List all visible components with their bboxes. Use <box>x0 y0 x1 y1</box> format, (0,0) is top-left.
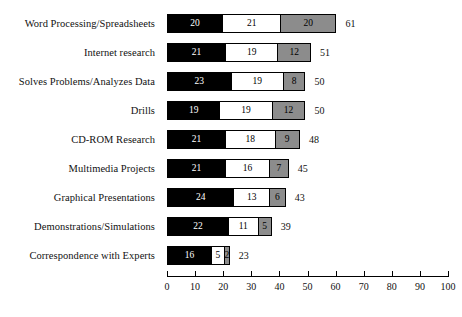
bar-segment-value: 7 <box>276 164 281 174</box>
bar-segment: 21 <box>222 14 281 33</box>
bar-segment: 5 <box>211 246 225 265</box>
plot-area: 2021206121191251231985019191250211894821… <box>167 0 462 317</box>
stacked-bar: 24136 <box>167 188 285 207</box>
bar-total-label: 50 <box>315 101 325 120</box>
bar-total-label: 51 <box>320 43 330 62</box>
category-label-row: Drills <box>0 101 155 120</box>
stacked-bar: 22115 <box>167 217 271 236</box>
bar-segment: 23 <box>167 72 232 91</box>
bar-segment-value: 2 <box>224 251 229 261</box>
x-axis-tick-label: 0 <box>152 281 182 293</box>
category-label-column: Word Processing/SpreadsheetsInternet res… <box>0 0 158 270</box>
bar-segment-value: 21 <box>192 164 202 174</box>
x-axis-tick-label: 50 <box>293 281 323 293</box>
x-axis-tick-label: 100 <box>433 281 462 293</box>
stacked-bar: 21189 <box>167 130 299 149</box>
bar-segment-value: 18 <box>246 135 256 145</box>
bar-segment: 19 <box>231 72 284 91</box>
bar-segment-value: 19 <box>189 106 199 116</box>
bar-segment-value: 8 <box>292 77 297 87</box>
bar-segment: 13 <box>233 188 270 207</box>
category-label: Graphical Presentations <box>0 192 155 203</box>
bar-segment: 21 <box>167 43 226 62</box>
bar-total-label: 43 <box>295 188 305 207</box>
bar-segment-value: 9 <box>285 135 290 145</box>
bar-segment: 19 <box>225 43 278 62</box>
category-label: Word Processing/Spreadsheets <box>0 18 155 29</box>
bar-segment-value: 13 <box>247 193 257 203</box>
x-axis-tick-label: 90 <box>405 281 435 293</box>
bar-segment: 8 <box>283 72 305 91</box>
bar-segment: 20 <box>167 14 223 33</box>
bar-segment-value: 22 <box>193 222 203 232</box>
stacked-bar: 211912 <box>167 43 310 62</box>
category-label-row: Demonstrations/Simulations <box>0 217 155 236</box>
bar-segment: 24 <box>167 188 234 207</box>
bar-segment: 6 <box>269 188 286 207</box>
bar-segment-value: 23 <box>195 77 205 87</box>
bar-segment: 2 <box>224 246 230 265</box>
bar-segment-value: 12 <box>289 48 299 58</box>
stacked-bar: 1652 <box>167 246 229 265</box>
bar-segment: 9 <box>275 130 300 149</box>
bar-segment: 19 <box>167 101 220 120</box>
category-label: Multimedia Projects <box>0 163 155 174</box>
bar-segment-value: 21 <box>247 19 257 29</box>
stacked-bar: 191912 <box>167 101 304 120</box>
bar-segment: 16 <box>167 246 212 265</box>
category-label: Solves Problems/Analyzes Data <box>0 76 155 87</box>
bar-segment-value: 20 <box>304 19 314 29</box>
bar-segment-value: 6 <box>275 193 280 203</box>
x-axis-tick-label: 20 <box>208 281 238 293</box>
bar-segment: 22 <box>167 217 229 236</box>
bar-segment: 5 <box>258 217 272 236</box>
category-label: Demonstrations/Simulations <box>0 221 155 232</box>
category-label-row: Word Processing/Spreadsheets <box>0 14 155 33</box>
bar-segment-value: 19 <box>247 48 257 58</box>
x-axis-tick-label: 30 <box>236 281 266 293</box>
bar-segment-value: 16 <box>243 164 253 174</box>
x-axis-tick-label: 80 <box>377 281 407 293</box>
bar-segment: 21 <box>167 130 226 149</box>
bar-segment-value: 12 <box>284 106 294 116</box>
bar-segment-value: 16 <box>185 251 195 261</box>
stacked-bar: 23198 <box>167 72 304 91</box>
bar-total-label: 45 <box>298 159 308 178</box>
stacked-bar-chart: Word Processing/SpreadsheetsInternet res… <box>0 0 462 317</box>
bar-total-label: 39 <box>281 217 291 236</box>
bar-total-label: 61 <box>345 14 355 33</box>
category-label: Drills <box>0 105 155 116</box>
bar-segment-value: 21 <box>192 48 202 58</box>
stacked-bar: 202120 <box>167 14 335 33</box>
bar-segment: 18 <box>225 130 276 149</box>
x-axis-tick <box>448 271 449 277</box>
bar-segment: 12 <box>272 101 306 120</box>
bar-segment: 16 <box>225 159 270 178</box>
bar-total-label: 48 <box>309 130 319 149</box>
bar-total-label: 50 <box>315 72 325 91</box>
category-label-row: CD-ROM Research <box>0 130 155 149</box>
bar-segment: 12 <box>277 43 311 62</box>
bar-segment: 21 <box>167 159 226 178</box>
x-axis-tick-label: 10 <box>180 281 210 293</box>
bar-segment-value: 11 <box>239 222 248 232</box>
bar-segment-value: 24 <box>196 193 206 203</box>
category-label: Correspondence with Experts <box>0 250 155 261</box>
x-axis-tick-label: 70 <box>349 281 379 293</box>
category-label-row: Multimedia Projects <box>0 159 155 178</box>
x-axis-tick-label: 60 <box>321 281 351 293</box>
category-label-row: Graphical Presentations <box>0 188 155 207</box>
x-axis-tick-label: 40 <box>264 281 294 293</box>
bar-segment: 11 <box>228 217 259 236</box>
bar-segment-value: 19 <box>241 106 251 116</box>
bar-segment-value: 20 <box>190 19 200 29</box>
x-axis-line <box>167 276 448 277</box>
bar-segment-value: 5 <box>262 222 267 232</box>
category-label-row: Solves Problems/Analyzes Data <box>0 72 155 91</box>
bar-segment-value: 5 <box>216 251 221 261</box>
category-label-row: Internet research <box>0 43 155 62</box>
category-label: CD-ROM Research <box>0 134 155 145</box>
bar-segment: 7 <box>269 159 289 178</box>
bar-segment-value: 19 <box>253 77 263 87</box>
bar-segment: 19 <box>219 101 272 120</box>
